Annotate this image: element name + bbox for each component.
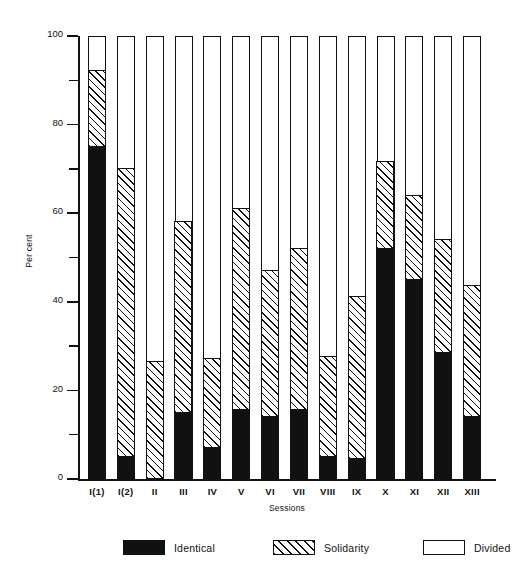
bar-segment-identical (88, 146, 106, 479)
legend-item-divided: Divided (423, 540, 510, 555)
chart-legend: IdenticalSolidarityDivided (78, 540, 508, 562)
bar-segment-solidarity (117, 168, 135, 457)
bar-segment-solidarity (203, 358, 221, 448)
bar-segment-identical (117, 456, 135, 479)
legend-label-solidarity: Solidarity (324, 542, 369, 554)
bar-segment-solidarity (290, 248, 308, 411)
bar-segment-solidarity (463, 285, 481, 417)
bar-segment-identical (290, 409, 308, 479)
bar-segment-solidarity (348, 296, 366, 459)
x-axis-line (78, 479, 496, 481)
y-axis-tick-label: 20 (52, 383, 63, 395)
bar-segment-solidarity (88, 70, 106, 147)
bar-segment-identical (319, 456, 337, 479)
bar-segment-solidarity (319, 356, 337, 457)
x-axis-label-XIII: XIII (452, 486, 492, 497)
y-axis-tick-60: 60 (67, 212, 78, 214)
y-axis-minor-tick-90 (69, 80, 78, 81)
y-axis-tick-100: 100 (67, 35, 78, 37)
bar-segment-solidarity (174, 221, 192, 413)
legend-label-divided: Divided (474, 542, 510, 554)
bar-VII (290, 36, 308, 479)
bar-segment-solidarity (434, 239, 452, 353)
bar-segment-identical (261, 416, 279, 479)
bar-segment-solidarity (146, 361, 164, 480)
y-axis-tick-0: 0 (67, 478, 78, 480)
bar-I(2) (117, 36, 135, 479)
legend-label-identical: Identical (174, 542, 215, 554)
bar-XII (434, 36, 452, 479)
bar-segment-identical (376, 248, 394, 480)
bar-IV (203, 36, 221, 479)
legend-swatch-divided (423, 540, 465, 555)
x-axis-title: Sessions (78, 503, 496, 513)
bar-segment-solidarity (261, 270, 279, 417)
y-axis-tick-label: 100 (47, 28, 63, 40)
y-axis-minor-tick-10 (69, 434, 78, 435)
bar-segment-identical (232, 409, 250, 479)
bar-II (146, 36, 164, 479)
bar-segment-identical (203, 447, 221, 479)
y-axis-tick-label: 0 (58, 471, 63, 483)
y-axis-tick-label: 60 (52, 205, 63, 217)
bar-XI (405, 36, 423, 479)
plot-area: 020406080100 (78, 36, 496, 479)
bar-I(1) (88, 36, 106, 479)
bar-chart: Per cent 020406080100 I(1)I(2)IIIIIIVVVI… (0, 0, 515, 578)
y-axis-minor-tick-50 (69, 257, 78, 258)
bar-X (377, 36, 395, 479)
legend-swatch-solidarity (273, 540, 315, 555)
bar-XIII (463, 36, 481, 479)
bar-V (232, 36, 250, 479)
y-axis-tick-40: 40 (67, 301, 78, 303)
bar-segment-identical (405, 279, 423, 480)
y-axis-title: Per cent (24, 216, 34, 286)
bar-III (175, 36, 193, 479)
bar-VI (261, 36, 279, 479)
x-axis-tick-labels: I(1)I(2)IIIIIIVVVIVIIVIIIIXXXIXIIXIII (78, 486, 496, 500)
bar-group (78, 36, 496, 479)
bar-segment-solidarity (376, 161, 394, 249)
legend-item-identical: Identical (123, 540, 215, 555)
bar-VIII (319, 36, 337, 479)
y-axis-tick-20: 20 (67, 390, 78, 392)
bar-segment-solidarity (405, 195, 423, 280)
y-axis-tick-label: 80 (52, 117, 63, 129)
y-axis-tick-80: 80 (67, 124, 78, 126)
bar-segment-identical (463, 416, 481, 479)
bar-segment-identical (434, 352, 452, 479)
legend-item-solidarity: Solidarity (273, 540, 369, 555)
bar-IX (348, 36, 366, 479)
y-axis-minor-tick-70 (69, 168, 78, 169)
bar-segment-solidarity (232, 208, 250, 411)
y-axis-minor-tick-30 (69, 345, 78, 346)
bar-segment-identical (174, 412, 192, 480)
bar-segment-identical (348, 458, 366, 479)
y-axis-tick-label: 40 (52, 294, 63, 306)
legend-swatch-identical (123, 540, 165, 555)
